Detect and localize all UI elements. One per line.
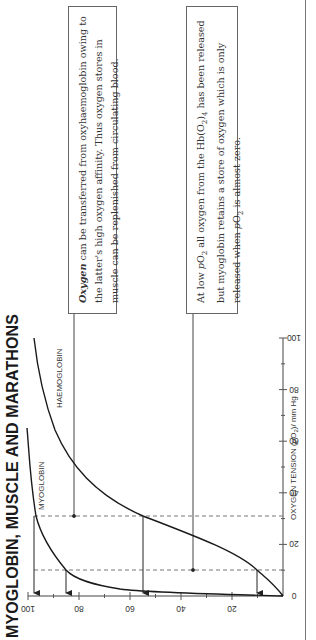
svg-text:100: 100	[287, 333, 301, 343]
oxygen-dissociation-chart: 100 80 60 40 20 0 20 40 60 80 100 OXYGEN…	[0, 0, 316, 640]
haemoglobin-curve	[34, 338, 283, 596]
svg-text:100: 100	[21, 604, 35, 614]
x-axis-title: OXYGEN TENSION (pO2)/ mm Hg	[289, 396, 299, 520]
myoglobin-curve	[27, 428, 283, 596]
svg-text:80: 80	[74, 604, 84, 614]
saturation-arrows	[34, 516, 257, 593]
svg-text:0: 0	[291, 591, 296, 601]
rotated-page: MYOGLOBIN, MUSCLE AND MARATHONS Oxygen c…	[0, 0, 316, 640]
myoglobin-label: MYOGLOBIN	[37, 461, 46, 510]
svg-text:20: 20	[227, 604, 237, 614]
svg-text:80: 80	[289, 385, 299, 395]
svg-text:60: 60	[125, 604, 135, 614]
svg-text:40: 40	[176, 604, 186, 614]
axes	[28, 338, 287, 600]
svg-text:20: 20	[289, 539, 299, 549]
callout-leaders	[72, 314, 194, 572]
y-tick-labels: 100 80 60 40 20	[21, 604, 237, 614]
haemoglobin-label: HAEMOGLOBIN	[55, 348, 64, 408]
